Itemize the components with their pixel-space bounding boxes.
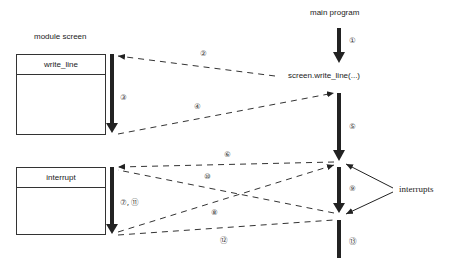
- interrupts-label: interrupts: [399, 184, 434, 194]
- write-line-label: write_line: [17, 55, 105, 75]
- step-9: ⑨: [349, 184, 356, 193]
- step-7-11: ⑦, ⑪: [120, 196, 139, 207]
- step-12: ⑫: [220, 234, 227, 245]
- main-program-title: main program: [310, 8, 359, 17]
- step-4: ④: [194, 102, 201, 111]
- interrupt-label: interrupt: [17, 168, 105, 188]
- interrupt-procedure-box: interrupt: [16, 167, 106, 235]
- step-8: ⑧: [211, 208, 218, 217]
- main-flow-arrows: [333, 28, 345, 258]
- step-5: ⑤: [349, 122, 356, 131]
- step-1: ①: [349, 36, 356, 45]
- step-3: ③: [120, 93, 127, 102]
- module-screen-title: module screen: [34, 32, 86, 41]
- step-10: ⑩: [204, 172, 211, 181]
- module-flow-arrows: [106, 54, 118, 234]
- step-13: ⑬: [349, 235, 356, 246]
- step-2: ②: [200, 49, 207, 58]
- call-statement: screen.write_line(...): [288, 71, 360, 80]
- step-6: ⑥: [224, 150, 231, 159]
- write-line-procedure-box: write_line: [16, 54, 106, 135]
